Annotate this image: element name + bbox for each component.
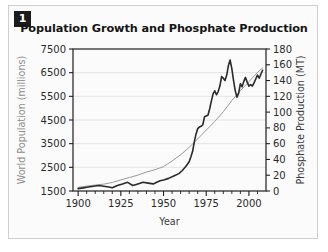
phosphate-production-line (78, 60, 262, 189)
y-axis-left-title: World Population (millions) (16, 56, 27, 184)
y-right-tick-label: 140 (273, 75, 292, 86)
y-right-tick-label: 20 (273, 170, 286, 181)
x-axis-tick-labels: 19001925195019752000 (65, 198, 261, 209)
x-tick-label: 2000 (236, 198, 261, 209)
y-left-tick-label: 1500 (41, 186, 66, 197)
y-left-tick-label: 2500 (41, 162, 66, 173)
x-axis-title: Year (158, 216, 179, 227)
y-right-tick-label: 80 (273, 122, 286, 133)
y-right-tick-label: 0 (273, 186, 279, 197)
data-series (78, 60, 262, 189)
y-left-tick-label: 6500 (41, 67, 66, 78)
y-left-tick-label: 5500 (41, 91, 66, 102)
chart-plot-area: 19001925195019752000 1500250035004500550… (9, 6, 319, 240)
y-left-tick-label: 3500 (41, 138, 66, 149)
y-axis-right-ticks (266, 49, 270, 191)
x-tick-label: 1950 (151, 198, 176, 209)
gridlines (73, 73, 266, 168)
x-tick-label: 1975 (193, 198, 218, 209)
y-right-tick-label: 100 (273, 107, 292, 118)
y-axis-left-tick-labels: 1500250035004500550065007500 (41, 44, 66, 197)
y-right-tick-label: 60 (273, 138, 286, 149)
y-right-tick-label: 180 (273, 44, 292, 55)
x-tick-label: 1900 (65, 198, 90, 209)
y-left-tick-label: 4500 (41, 115, 66, 126)
y-axis-right-title: Phosphate Production (MT) (295, 55, 306, 184)
y-right-tick-label: 160 (273, 59, 292, 70)
y-right-tick-label: 40 (273, 154, 286, 165)
x-tick-label: 1925 (108, 198, 133, 209)
y-right-tick-label: 120 (273, 91, 292, 102)
y-left-tick-label: 7500 (41, 44, 66, 55)
y-axis-right-tick-labels: 020406080100120140160180 (273, 44, 292, 197)
figure-card: 1 Population Growth and Phosphate Produc… (8, 5, 318, 239)
